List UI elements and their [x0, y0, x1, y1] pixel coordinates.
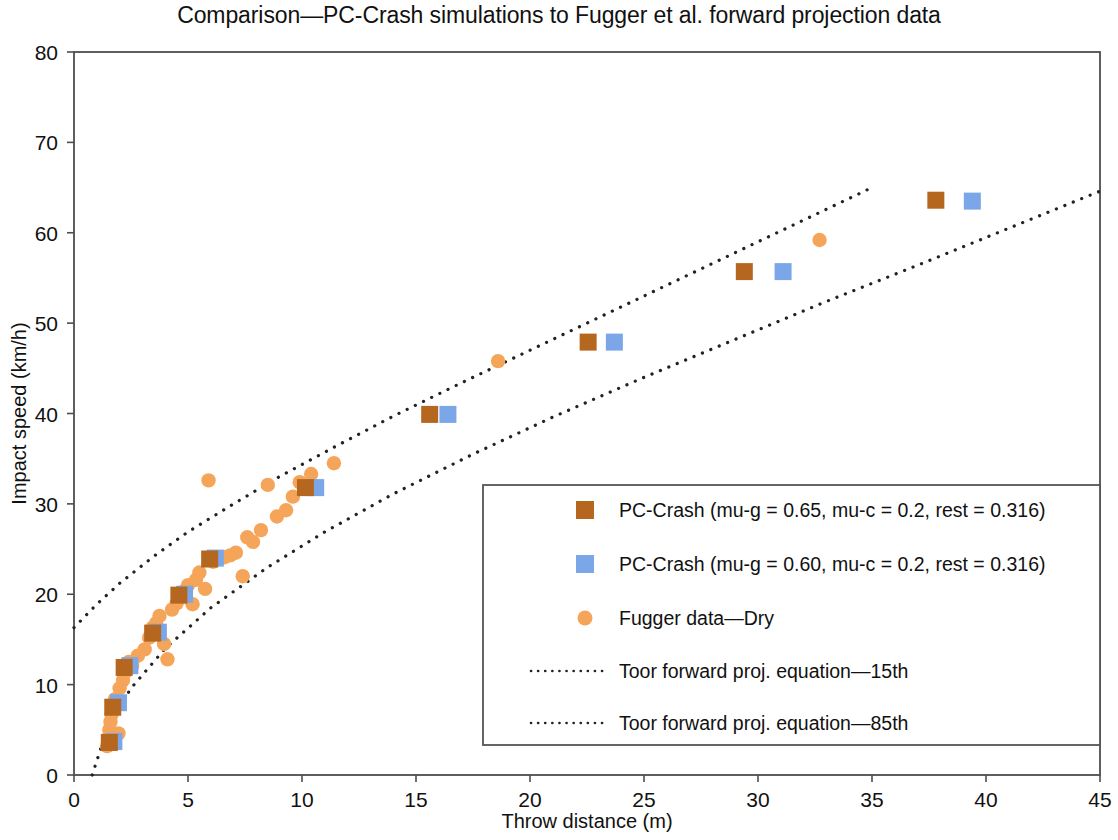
legend-marker-square — [576, 555, 594, 573]
data-point-square — [927, 192, 944, 209]
x-axis-tick-label: 20 — [518, 788, 541, 811]
legend-item-label: PC-Crash (mu-g = 0.60, mu-c = 0.2, rest … — [619, 553, 1045, 575]
data-point-circle — [152, 609, 166, 623]
data-point-circle — [198, 582, 212, 596]
data-point-circle — [304, 467, 318, 481]
x-axis-tick-label: 10 — [290, 788, 313, 811]
y-axis-tick-label: 60 — [35, 222, 58, 245]
x-axis-tick-label: 45 — [1088, 788, 1111, 811]
x-axis-tick-label: 35 — [860, 788, 883, 811]
y-axis-tick-label: 80 — [35, 41, 58, 64]
data-point-square — [775, 263, 792, 280]
data-point-square — [439, 406, 456, 423]
data-point-circle — [261, 478, 275, 492]
data-point-circle — [279, 503, 293, 517]
data-point-square — [964, 193, 981, 210]
legend-item-label: Toor forward proj. equation—85th — [619, 712, 908, 734]
legend-item-0[interactable]: PC-Crash (mu-g = 0.65, mu-c = 0.2, rest … — [576, 499, 1045, 521]
x-axis-tick-label: 25 — [632, 788, 655, 811]
data-point-circle — [812, 233, 826, 247]
x-axis-tick-label: 15 — [404, 788, 427, 811]
legend-item-label: Toor forward proj. equation—15th — [619, 660, 908, 682]
chart-figure: Comparison—PC-Crash simulations to Fugge… — [0, 0, 1118, 840]
data-point-square — [736, 263, 753, 280]
data-point-circle — [160, 652, 174, 666]
data-point-circle — [192, 565, 206, 579]
data-point-square — [104, 699, 121, 716]
x-axis-tick-label: 40 — [974, 788, 997, 811]
y-axis-tick-label: 10 — [35, 674, 58, 697]
data-point-square — [144, 625, 161, 642]
y-axis-tick-label: 40 — [35, 403, 58, 426]
legend-item-label: PC-Crash (mu-g = 0.65, mu-c = 0.2, rest … — [619, 499, 1045, 521]
data-point-square — [606, 334, 623, 351]
y-axis-tick-label: 70 — [35, 131, 58, 154]
data-point-circle — [246, 535, 260, 549]
legend-marker-square — [576, 501, 594, 519]
data-point-square — [170, 587, 187, 604]
y-axis-tick-label: 20 — [35, 583, 58, 606]
data-point-square — [116, 659, 133, 676]
data-point-square — [201, 551, 218, 568]
y-axis-tick-label: 50 — [35, 312, 58, 335]
legend-box — [483, 485, 1100, 745]
data-point-square — [297, 479, 314, 496]
data-point-square — [101, 734, 118, 751]
legend-marker-circle — [578, 611, 593, 626]
x-axis-label: Throw distance (m) — [501, 810, 672, 832]
data-point-circle — [201, 473, 215, 487]
data-point-circle — [236, 569, 250, 583]
y-axis-label: Impact speed (km/h) — [8, 322, 30, 504]
x-axis-tick-label: 5 — [182, 788, 194, 811]
data-point-circle — [254, 523, 268, 537]
data-point-circle — [491, 354, 505, 368]
x-axis-tick-label: 30 — [746, 788, 769, 811]
data-point-circle — [229, 545, 243, 559]
legend-item-label: Fugger data—Dry — [619, 607, 774, 629]
x-axis-tick-label: 0 — [68, 788, 80, 811]
scatter-plot-canvas: 05101520253035404501020304050607080Throw… — [0, 0, 1118, 840]
y-axis-tick-label: 30 — [35, 493, 58, 516]
legend-item-1[interactable]: PC-Crash (mu-g = 0.60, mu-c = 0.2, rest … — [576, 553, 1045, 575]
y-axis-tick-label: 0 — [46, 764, 58, 787]
data-point-square — [580, 334, 597, 351]
data-point-circle — [327, 456, 341, 470]
data-point-square — [421, 406, 438, 423]
